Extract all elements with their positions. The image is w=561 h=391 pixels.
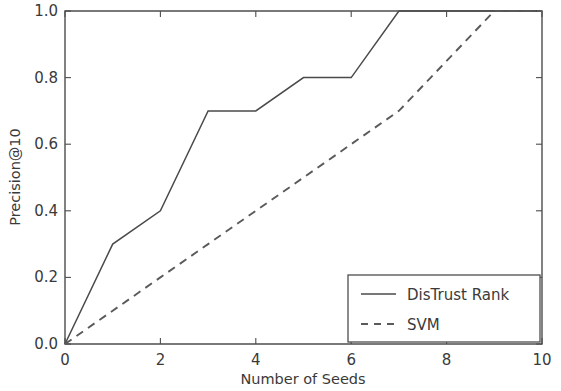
y-tick-label-3: 0.6: [34, 135, 58, 153]
y-tick-label-4: 0.8: [34, 69, 58, 87]
x-tick-label-5: 10: [532, 351, 551, 369]
x-tick-label-2: 4: [251, 351, 261, 369]
x-tick-labels: 0 2 4 6 8 10: [60, 351, 551, 369]
y-tick-label-5: 1.0: [34, 2, 58, 20]
x-tick-label-4: 8: [442, 351, 452, 369]
y-axis-title: Precision@10: [7, 128, 23, 226]
chart-legend: DisTrust Rank SVM: [348, 275, 540, 342]
x-tick-label-0: 0: [60, 351, 70, 369]
y-tick-labels: 0.0 0.2 0.4 0.6 0.8 1.0: [34, 2, 58, 353]
y-tick-label-1: 0.2: [34, 268, 58, 286]
x-axis-title: Number of Seeds: [240, 371, 365, 387]
legend-label-distrust-rank: DisTrust Rank: [407, 286, 509, 304]
y-tick-label-2: 0.4: [34, 202, 58, 220]
x-tick-label-1: 2: [156, 351, 166, 369]
x-tick-label-3: 6: [346, 351, 356, 369]
legend-label-svm: SVM: [407, 316, 440, 334]
precision-at-10-line-chart: 0 2 4 6 8 10 0.0 0.2 0.4 0.6 0.8 1.0 Num…: [0, 0, 561, 391]
chart-figure: 0 2 4 6 8 10 0.0 0.2 0.4 0.6 0.8 1.0 Num…: [0, 0, 561, 391]
y-tick-label-0: 0.0: [34, 335, 58, 353]
